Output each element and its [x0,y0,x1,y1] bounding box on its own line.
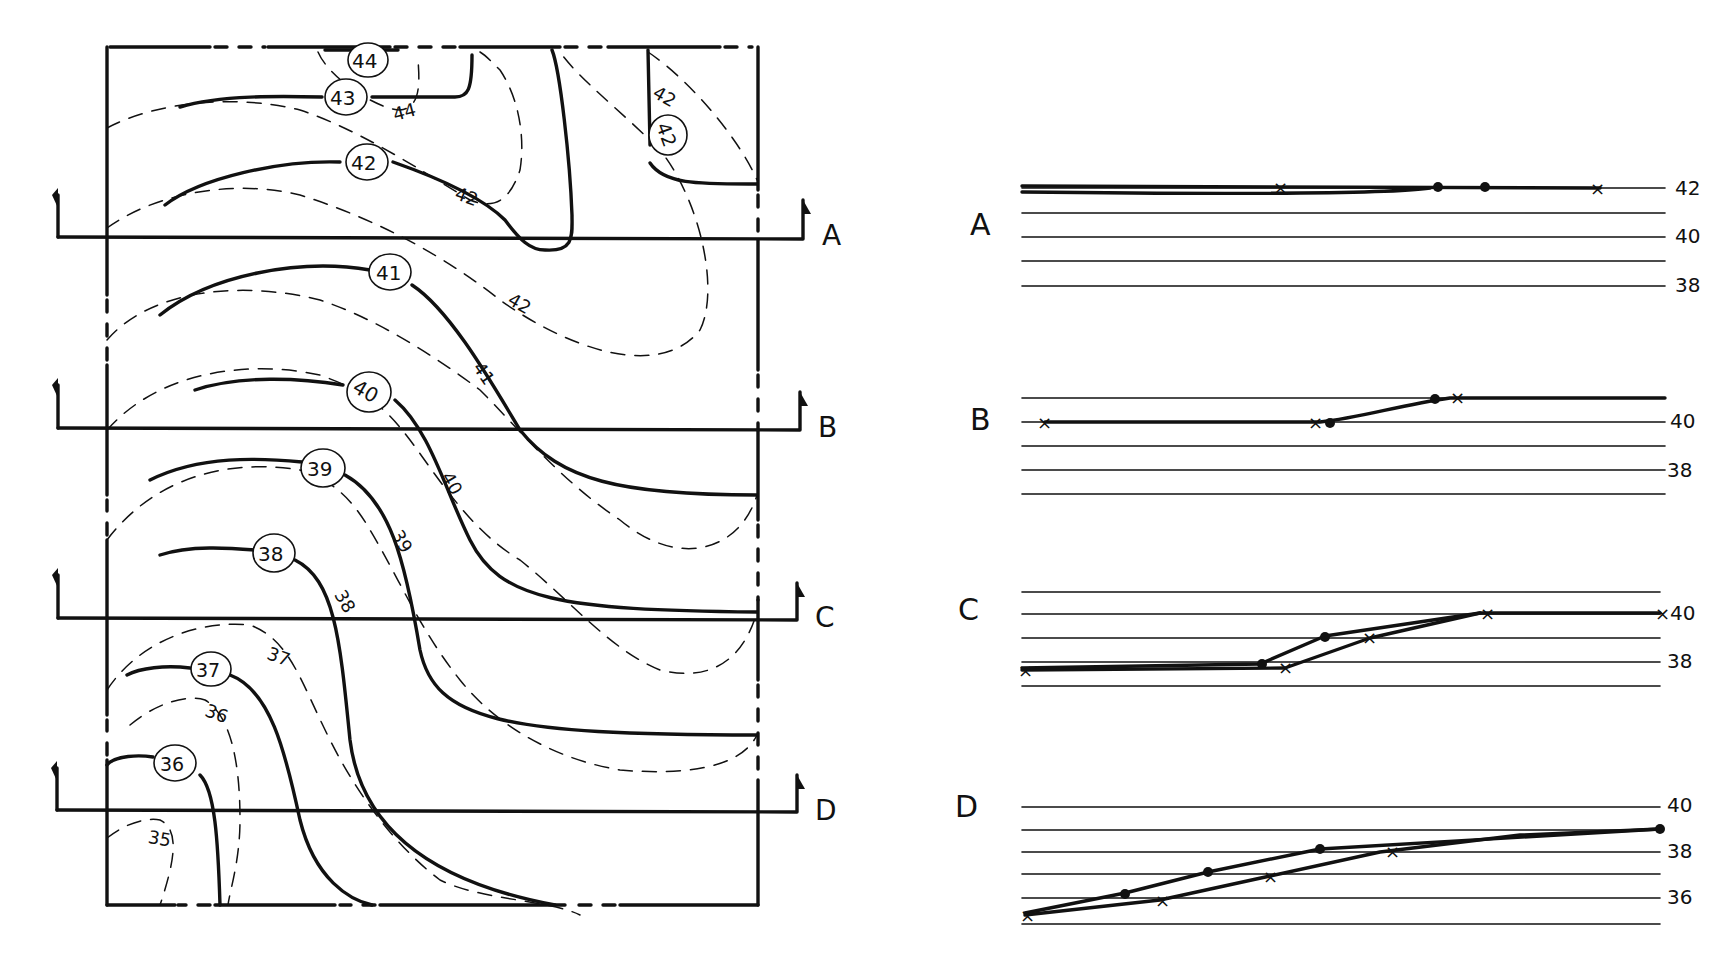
contour-label: 37 [264,643,293,671]
elevation-label: 40 [1670,409,1695,433]
elevation-label: 38 [1667,839,1692,863]
proposed-contour-labels: 44 43 42 42 41 40 39 38 37 36 [154,43,687,781]
section-label-a: A [970,207,991,242]
existing-contour-labels: 44 42 42 42 41 40 39 38 37 36 35 [146,81,679,850]
elevation-label: 38 [1667,458,1692,482]
section-cut-label-d: D [815,794,837,827]
existing-grade-marker: × [1480,603,1495,624]
existing-grade-marker: × [1037,412,1052,433]
existing-grade-marker: × [1020,905,1035,926]
elevation-label: 40 [1667,793,1692,817]
contour-label: 42 [351,151,376,175]
section-label-d: D [955,789,978,824]
contour-label: 38 [330,586,360,616]
section-cut-label-a: A [822,219,841,252]
existing-grade-marker: × [1018,660,1033,681]
contour-label: 41 [376,261,401,285]
existing-grade-marker: × [1273,177,1288,198]
existing-contours [107,52,757,915]
contour-label: 42 [505,288,535,318]
contour-label: 37 [196,659,220,681]
section-b: B × × × 40 38 [970,387,1695,494]
proposed-contours [107,50,757,905]
existing-grade-marker: × [1278,657,1293,678]
section-label-b: B [970,402,991,437]
existing-grade-marker: × [1155,890,1170,911]
contour-label: 38 [258,542,283,566]
elevation-label: 38 [1675,273,1700,297]
contour-label: 36 [202,700,231,728]
contour-label: 39 [307,457,332,481]
existing-grade-marker: × [1655,603,1670,624]
existing-grade-marker: × [1385,841,1400,862]
section-cut-letters: A B C D [815,219,841,827]
existing-grade-marker: × [1450,387,1465,408]
site-plan: 44 43 42 42 41 40 39 38 37 36 44 42 42 4… [51,43,841,915]
grading-diagram: 44 43 42 42 41 40 39 38 37 36 44 42 42 4… [0,0,1734,970]
existing-grade-marker: × [1263,866,1278,887]
section-d: D × × × × 40 38 36 [955,789,1692,926]
existing-grade-marker: × [1590,178,1605,199]
existing-grade-marker: × [1362,627,1377,648]
contour-label: 36 [160,753,184,775]
contour-label: 42 [650,81,680,111]
contour-label: 44 [352,49,377,73]
contour-label: 43 [330,86,355,110]
contour-label: 41 [469,358,499,389]
elevation-label: 40 [1675,224,1700,248]
elevation-label: 40 [1670,601,1695,625]
section-cut-label-b: B [818,411,837,444]
section-cut-lines [51,188,811,812]
section-a: A × × 42 40 38 [970,176,1700,297]
section-c: C × × × × × 40 38 [958,592,1695,686]
sections-panel: A × × 42 40 38 B × [955,176,1700,926]
section-cut-label-c: C [815,601,835,634]
elevation-label: 38 [1667,649,1692,673]
existing-grade-marker: × [1308,412,1323,433]
section-label-c: C [958,592,979,627]
elevation-label: 42 [1675,176,1700,200]
elevation-label: 36 [1667,885,1692,909]
contour-label: 35 [146,826,172,851]
